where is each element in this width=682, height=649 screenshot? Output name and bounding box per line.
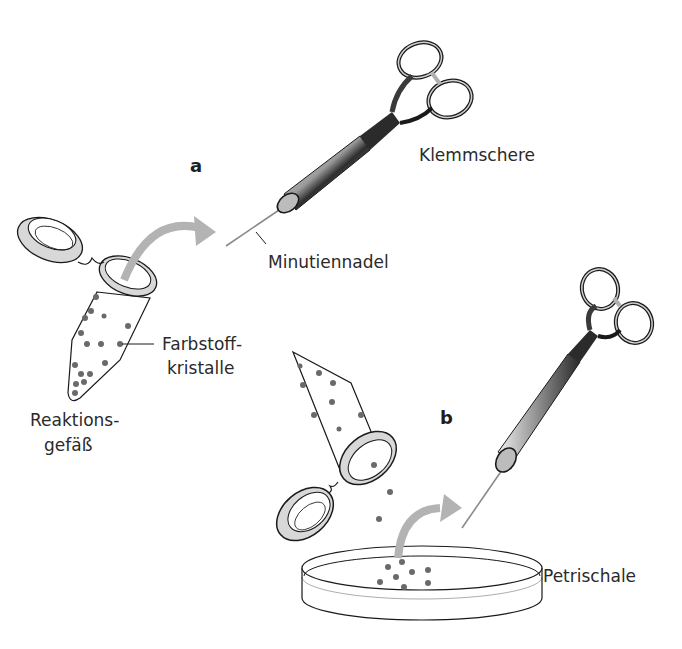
figure: a b Klemmschere Minutiennadel Farbstoff-… (0, 0, 682, 649)
reaction-tube-b (266, 352, 406, 551)
clamp-scissors-b (462, 265, 657, 528)
label-dye-crystals-line2: kristalle (167, 358, 234, 379)
label-clamp-scissors: Klemmschere (419, 145, 535, 166)
label-dye-crystals-line1: Farbstoff- (162, 334, 242, 355)
label-reaction-tube-line2: gefäß (44, 435, 92, 456)
leader-line-minutien-pin (256, 232, 266, 244)
panel-label-b: b (440, 407, 453, 428)
label-minutien-pin: Minutiennadel (268, 252, 389, 273)
falling-crystal (387, 489, 393, 495)
petri-dish (302, 546, 542, 620)
illustration (0, 0, 682, 649)
panel-label-a: a (190, 155, 202, 176)
minutien-pin-a (226, 208, 282, 246)
label-petri-dish: Petrischale (543, 566, 636, 587)
falling-crystal (376, 516, 382, 522)
label-reaction-tube-line1: Reaktions- (30, 410, 119, 431)
reaction-tube-a (11, 209, 163, 401)
clamp-scissors-a (226, 37, 477, 246)
minutien-pin-b (462, 470, 502, 528)
